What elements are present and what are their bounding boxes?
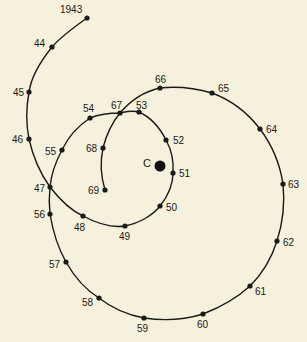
year-point-62 <box>274 238 279 243</box>
year-point-58 <box>96 295 101 300</box>
year-label-44: 44 <box>34 38 46 49</box>
year-point-61 <box>247 283 252 288</box>
year-label-1943: 1943 <box>60 4 83 15</box>
year-label-60: 60 <box>197 319 209 330</box>
year-label-47: 47 <box>34 183 46 194</box>
year-label-48: 48 <box>74 222 86 233</box>
year-label-64: 64 <box>266 124 278 135</box>
year-label-61: 61 <box>255 286 267 297</box>
year-label-65: 65 <box>218 83 230 94</box>
year-point-45 <box>26 89 31 94</box>
year-label-57: 57 <box>49 259 61 270</box>
year-label-56: 56 <box>34 209 46 220</box>
year-label-50: 50 <box>166 202 178 213</box>
year-label-49: 49 <box>119 231 131 242</box>
year-point-47 <box>47 184 52 189</box>
year-point-46 <box>26 136 31 141</box>
year-point-54 <box>87 115 92 120</box>
year-label-62: 62 <box>283 237 295 248</box>
year-point-66 <box>157 85 162 90</box>
year-point-60 <box>200 311 205 316</box>
year-label-55: 55 <box>45 146 57 157</box>
year-point-52 <box>163 137 168 142</box>
year-point-69 <box>102 187 107 192</box>
year-point-51 <box>170 170 175 175</box>
spiral-curve <box>27 18 284 320</box>
year-label-51: 51 <box>179 168 191 179</box>
year-point-50 <box>157 203 162 208</box>
year-label-68: 68 <box>86 143 98 154</box>
year-point-48 <box>80 213 85 218</box>
year-point-49 <box>122 223 127 228</box>
year-label-46: 46 <box>12 134 24 145</box>
year-label-67: 67 <box>111 100 123 111</box>
year-label-59: 59 <box>137 323 149 334</box>
year-label-45: 45 <box>13 87 25 98</box>
center-marker <box>155 161 166 172</box>
year-point-65 <box>209 90 214 95</box>
year-point-55 <box>59 147 64 152</box>
year-label-53: 53 <box>136 100 148 111</box>
year-label-54: 54 <box>83 103 95 114</box>
year-point-1943 <box>84 15 89 20</box>
year-point-68 <box>100 145 105 150</box>
year-point-44 <box>49 44 54 49</box>
year-label-69: 69 <box>88 185 100 196</box>
year-point-56 <box>47 211 52 216</box>
year-label-58: 58 <box>82 297 94 308</box>
spiral-diagram: 1943444546474849505152535455565758596061… <box>0 0 307 342</box>
year-point-64 <box>257 126 262 131</box>
spiral-plot: 1943444546474849505152535455565758596061… <box>0 0 307 342</box>
year-point-57 <box>63 259 68 264</box>
year-label-63: 63 <box>288 179 300 190</box>
year-label-66: 66 <box>155 74 167 85</box>
year-point-67 <box>117 110 122 115</box>
year-point-63 <box>280 181 285 186</box>
center-label: C <box>143 157 151 169</box>
year-label-52: 52 <box>173 135 185 146</box>
year-point-59 <box>141 315 146 320</box>
